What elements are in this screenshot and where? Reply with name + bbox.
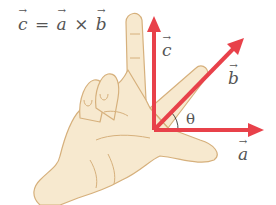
label-b: b	[228, 70, 239, 87]
formula-times: ×	[72, 14, 90, 34]
cross-product-formula: c = a × b	[18, 14, 107, 34]
formula-equals: =	[33, 14, 51, 34]
formula-c: c	[18, 14, 28, 34]
label-theta: θ	[186, 112, 195, 127]
formula-b: b	[96, 14, 107, 34]
right-hand-rule-diagram: c = a × b c b a θ	[0, 0, 276, 205]
formula-a: a	[57, 14, 67, 34]
label-a: a	[238, 146, 248, 163]
label-c: c	[162, 42, 172, 59]
